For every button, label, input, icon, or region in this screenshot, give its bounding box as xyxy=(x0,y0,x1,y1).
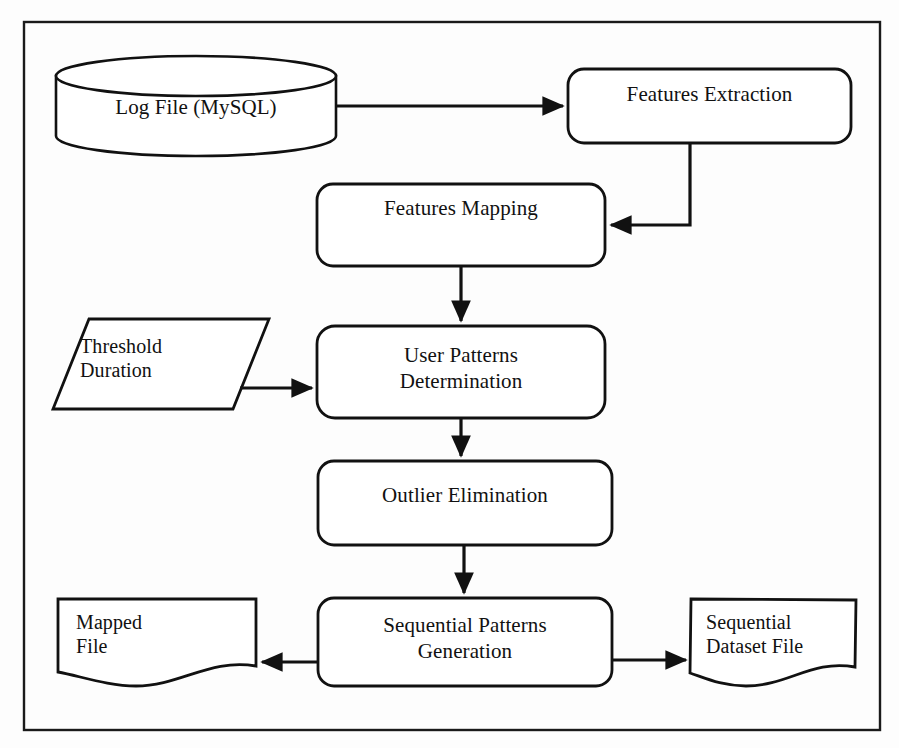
diagram-page: Log File (MySQL) Features Extraction Fea… xyxy=(0,0,899,748)
node-threshold-duration xyxy=(53,319,269,409)
node-features-extraction xyxy=(568,69,851,143)
node-outlier-elimination xyxy=(318,461,612,545)
node-mapped-file xyxy=(58,599,256,686)
node-user-patterns xyxy=(317,326,605,418)
node-features-mapping xyxy=(317,184,605,266)
edge-features-extraction-to-features-mapping xyxy=(611,143,690,225)
node-log-file xyxy=(56,56,336,156)
node-sequential-patterns xyxy=(318,598,612,686)
flowchart-canvas xyxy=(0,0,899,748)
node-sequential-dataset xyxy=(690,599,856,686)
